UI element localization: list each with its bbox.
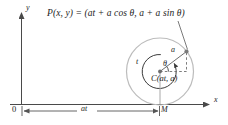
arc-parameter-label: t [136, 58, 138, 66]
point-p-marker [184, 49, 188, 53]
radius-label: a [171, 46, 175, 54]
dimension-at-group [22, 106, 160, 116]
axes-group [10, 13, 209, 105]
x-axis-label: x [214, 96, 218, 104]
origin-label: 0 [12, 105, 16, 114]
y-axis-label: y [26, 4, 30, 12]
angle-label: θ [163, 60, 167, 68]
cycloid-figure: P(x, y) = (at + a cos θ, a + a sin θ) y … [0, 0, 228, 125]
distance-at-label: at [81, 105, 87, 113]
contact-point-label: M [161, 106, 168, 114]
figure-canvas [0, 0, 228, 125]
point-equation-label: P(x, y) = (at + a cos θ, a + a sin θ) [47, 9, 185, 19]
center-label: C(at, a) [151, 74, 177, 83]
equation-leader-line [178, 21, 188, 50]
